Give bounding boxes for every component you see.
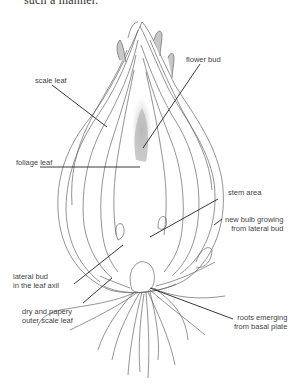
label-roots: roots emerging from basal plate [234, 313, 287, 331]
label-new-bulb: new bulb growing from lateral bud [225, 215, 283, 233]
label-scale-leaf: scale leaf [35, 76, 67, 85]
label-lateral-bud: lateral bud in the leaf axil [13, 272, 59, 290]
label-dry-outer-scale: dry and papery outer scale leaf [22, 307, 73, 325]
label-flower-bud: flower bud [186, 55, 221, 64]
label-foliage-leaf: foliage leaf [16, 158, 52, 167]
label-stem-area: stem area [228, 188, 261, 197]
